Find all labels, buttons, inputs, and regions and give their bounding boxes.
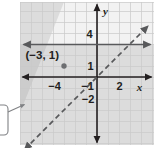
figure-container: −4 −1 2 4 1 −2 x y (−3, 1) <box>0 0 157 148</box>
y-axis-label: y <box>101 5 108 17</box>
x-tick-label--4: −4 <box>48 80 61 92</box>
plotted-point <box>61 63 66 68</box>
coordinate-plane-graph: −4 −1 2 4 1 −2 x y (−3, 1) <box>0 0 157 148</box>
y-tick-label-1: 1 <box>87 60 93 72</box>
point-coordinate-label: (−3, 1) <box>26 49 60 61</box>
y-tick-label-4: 4 <box>86 28 93 40</box>
x-tick-label-2: 2 <box>116 80 122 92</box>
x-axis-label: x <box>136 81 143 93</box>
callout-box <box>0 105 8 135</box>
y-tick-label--2: −2 <box>82 93 95 105</box>
point-annotation: (−3, 1) <box>26 49 60 61</box>
x-tick-label--1: −1 <box>81 80 94 92</box>
